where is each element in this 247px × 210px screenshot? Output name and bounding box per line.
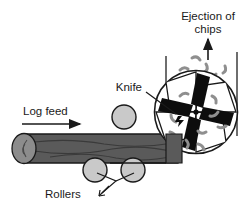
top-roller [112,105,136,129]
bottom-roller-left [83,158,107,182]
diagram-canvas: Ejection of chips Knife Log feed Rollers [0,0,247,210]
ejection-label-line1: Ejection of [181,10,236,22]
log-tip-at-cutter [166,134,182,163]
log-chipper-diagram: Ejection of chips Knife Log feed Rollers [0,0,247,210]
chip [218,126,226,128]
log-end-face [12,134,36,164]
rollers-label: Rollers [45,188,81,200]
cutter-head-hub-icon [193,109,198,114]
knife-label: Knife [116,81,142,93]
ejection-label-line2: chips [195,23,222,35]
log-feed-label: Log feed [23,105,68,117]
bottom-roller-right [121,158,145,182]
